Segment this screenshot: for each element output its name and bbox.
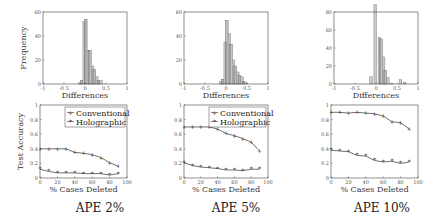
data-point-marker: * [39, 165, 42, 172]
y-axis-label: Frequency [19, 26, 28, 70]
data-point-marker: + [328, 108, 333, 115]
histogram-bar [97, 80, 100, 84]
y-tick-label: 0.2 [174, 160, 182, 166]
legend: +Conventional*Holographic [65, 107, 130, 127]
y-tick-label: 0.4 [174, 146, 182, 152]
data-point-marker: + [190, 123, 195, 130]
series-line-holographic [184, 163, 260, 171]
accuracy-panel-1: 02040608010000.20.40.60.81++++++++++****… [16, 102, 132, 194]
y-tick-label: 0.4 [321, 146, 329, 152]
data-point-marker: + [249, 138, 254, 145]
data-point-marker: + [116, 162, 121, 169]
histogram-bar [370, 77, 373, 84]
data-point-marker: + [64, 145, 69, 152]
accuracy-panel-2: 02040608010000.20.40.60.81++++++++++****… [174, 102, 274, 194]
data-point-marker: + [198, 123, 203, 130]
y-tick-label: 0 [38, 81, 41, 87]
data-point-marker: * [91, 170, 94, 177]
data-point-marker: + [346, 109, 351, 116]
data-point-marker: * [183, 159, 186, 166]
legend-entry: Conventional [220, 109, 274, 118]
data-point-marker: + [181, 123, 186, 130]
data-point-marker: * [399, 159, 402, 166]
data-point-marker: + [72, 148, 77, 155]
y-tick-label: 1 [179, 102, 182, 108]
data-point-marker: * [390, 157, 393, 164]
legend-marker: * [213, 118, 216, 125]
histogram-bar [230, 44, 233, 84]
data-point-marker: * [338, 147, 341, 154]
data-point-marker: + [90, 151, 95, 158]
data-point-marker: * [216, 165, 219, 172]
legend-entry: Holographic [220, 118, 271, 127]
y-tick-label: 40 [35, 33, 41, 39]
data-point-marker: + [98, 154, 103, 161]
histogram-bar [374, 5, 377, 84]
x-tick-label: -1 [41, 85, 46, 91]
y-tick-label: 0.6 [30, 131, 38, 137]
legend-marker: * [69, 118, 72, 125]
data-point-marker: * [65, 169, 68, 176]
y-tick-label: 0 [329, 81, 332, 87]
y-tick-label: 60 [176, 9, 182, 15]
data-point-marker: + [232, 132, 237, 139]
x-axis-label: % Cases Deleted [192, 185, 260, 194]
x-axis-label: Differences [62, 91, 108, 100]
histogram-bar [84, 19, 87, 84]
y-tick-label: 0.6 [174, 131, 182, 137]
histogram-panel-1: -1-0.500.510204060DifferencesFrequency [19, 9, 129, 100]
series-line-holographic [331, 150, 409, 163]
data-point-marker: + [55, 145, 60, 152]
y-tick-label: 0.2 [321, 160, 329, 166]
x-tick-label: -1 [332, 85, 337, 91]
histogram-bar [89, 50, 92, 84]
histogram-bar [238, 76, 241, 84]
histogram-bar [234, 66, 237, 84]
accuracy-panel-3: 02040608010000.20.40.60.81++++++++++****… [321, 102, 423, 194]
data-point-marker: * [225, 166, 228, 173]
x-axis-label: Differences [353, 91, 399, 100]
data-point-marker: * [373, 156, 376, 163]
data-point-marker: * [73, 169, 76, 176]
panel-title: APE 2% [75, 201, 124, 215]
data-point-marker: + [398, 119, 403, 126]
data-point-marker: + [37, 145, 42, 152]
y-tick-label: 0 [326, 175, 329, 181]
y-tick-label: 0 [179, 175, 182, 181]
x-axis-label: % Cases Deleted [340, 185, 408, 194]
data-point-marker: + [407, 125, 412, 132]
data-point-marker: * [258, 165, 261, 172]
y-tick-label: 20 [176, 57, 182, 63]
histogram-bar [221, 79, 224, 84]
histogram-bar [399, 80, 402, 85]
y-tick-label: 1 [35, 102, 38, 108]
figure: -1-0.500.510204060DifferencesFrequency-1… [0, 0, 442, 222]
y-tick-label: 80 [326, 9, 332, 15]
data-point-marker: * [364, 152, 367, 159]
x-tick-label: 0 [182, 179, 185, 185]
histogram-panel-2: -1-0.500.510204060Differences [176, 9, 270, 100]
y-tick-label: 0.8 [30, 117, 38, 123]
legend-entry: Holographic [76, 118, 127, 127]
y-tick-label: 0.2 [30, 160, 38, 166]
data-point-marker: + [81, 149, 86, 156]
histogram-bar [225, 20, 228, 84]
y-tick-label: 60 [35, 9, 41, 15]
data-point-marker: * [199, 163, 202, 170]
histogram-bar [380, 39, 383, 84]
data-point-marker: * [99, 170, 102, 177]
x-axis-label: % Cases Deleted [49, 185, 117, 194]
x-tick-label: -1 [182, 85, 187, 91]
data-point-marker: + [355, 108, 360, 115]
y-tick-label: 0.8 [321, 117, 329, 123]
x-tick-label: 0 [38, 179, 41, 185]
data-point-marker: * [208, 164, 211, 171]
data-point-marker: + [337, 108, 342, 115]
data-point-marker: + [372, 110, 377, 117]
panel-title: APE 10% [353, 201, 410, 215]
y-tick-label: 0.6 [321, 131, 329, 137]
histogram-bar [242, 82, 245, 84]
data-point-marker: + [363, 109, 368, 116]
data-point-marker: * [382, 158, 385, 165]
x-tick-label: 1 [125, 85, 128, 91]
